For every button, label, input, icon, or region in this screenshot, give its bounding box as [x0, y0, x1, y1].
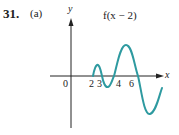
x-tick-label: 3	[97, 78, 102, 89]
x-tick-label: 6	[129, 78, 134, 89]
x-tick-label: 2	[89, 78, 94, 89]
x-axis-arrow-icon	[156, 74, 164, 79]
x-tick-label: 4	[116, 78, 121, 89]
origin-label: 0	[63, 78, 68, 89]
graph	[0, 0, 179, 135]
y-axis-arrow-icon	[69, 18, 74, 26]
function-curve	[93, 45, 162, 114]
